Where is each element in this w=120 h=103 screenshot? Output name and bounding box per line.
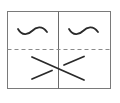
- wave-icon-left: [18, 27, 47, 34]
- crossing-line-under-left: [32, 71, 52, 80]
- diagram-svg: [0, 0, 120, 103]
- wave-icon-right: [69, 27, 98, 34]
- diagram-canvas: [0, 0, 120, 103]
- crossing-line-under-right: [64, 57, 84, 66]
